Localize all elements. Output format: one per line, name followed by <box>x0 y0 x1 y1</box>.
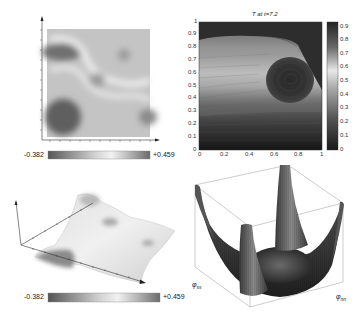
y-tick: 0.4 <box>188 94 196 100</box>
potential-surface-plot <box>180 165 359 330</box>
x-tick: 0.2 <box>220 151 228 157</box>
panel-top-right-contour: T at t=7.2 <box>180 0 359 165</box>
z-axis-arrow-icon <box>15 200 18 205</box>
x-axis-arrow-icon <box>140 280 147 285</box>
x-tick: 0.8 <box>294 151 302 157</box>
colorbar-tick: 0.6 <box>340 63 348 69</box>
colorbar-tick: 0.9 <box>340 23 348 29</box>
y-tick: 0.2 <box>188 120 196 126</box>
y-tick: 0 <box>193 146 196 152</box>
axis-label-subscript: nn <box>341 296 347 302</box>
colorbar-tick: 0.8 <box>340 36 348 42</box>
x-tick: 1 <box>320 151 323 157</box>
colorbar-min-label: -0.382 <box>24 293 44 300</box>
axis-label-phi-ss: φss <box>192 281 202 290</box>
colorbar-tick: 0.2 <box>340 118 348 124</box>
panel-bottom-right-potential: φss φnn <box>180 165 359 330</box>
colorbar-tick: 0.7 <box>340 50 348 56</box>
colorbar <box>48 151 150 159</box>
y-tick: 0.5 <box>188 82 196 88</box>
y-tick: 0.8 <box>188 43 196 49</box>
colorbar-tick: 0.5 <box>340 77 348 83</box>
y-tick: 0.9 <box>188 30 196 36</box>
colorbar-min-label: -0.382 <box>24 151 44 158</box>
vortex <box>266 57 314 103</box>
colorbar-tick: 0.1 <box>340 132 348 138</box>
y-tick: 0.6 <box>188 69 196 75</box>
contour-plot <box>180 0 359 165</box>
colorbar-tick: 0.4 <box>340 91 348 97</box>
colorbar-max-label: +0.459 <box>153 151 175 158</box>
y-tick: 0.3 <box>188 107 196 113</box>
y-tick: 0.7 <box>188 56 196 62</box>
x-axis-arrow-icon <box>155 139 160 142</box>
y-axis-arrow-icon <box>41 16 44 21</box>
surface-3d-plot <box>0 165 180 330</box>
x-tick: 0 <box>198 151 201 157</box>
axis-label-subscript: ss <box>197 284 202 290</box>
y-tick: 1 <box>194 18 197 24</box>
colorbar <box>48 293 160 302</box>
panel-bottom-left-surface: -0.382 +0.459 <box>0 165 180 330</box>
y-tick: 0.1 <box>188 133 196 139</box>
panel-top-left-heatmap: -0.382 +0.459 <box>0 0 180 165</box>
colorbar-tick: 0 <box>340 146 343 152</box>
axis-label-phi-nn: φnn <box>336 293 346 302</box>
colorbar-tick: 0.3 <box>340 104 348 110</box>
x-tick: 0.6 <box>270 151 278 157</box>
z-axis <box>16 202 21 245</box>
colorbar <box>327 22 338 150</box>
heatmap-2d-plot <box>0 0 180 165</box>
x-tick: 0.4 <box>245 151 253 157</box>
